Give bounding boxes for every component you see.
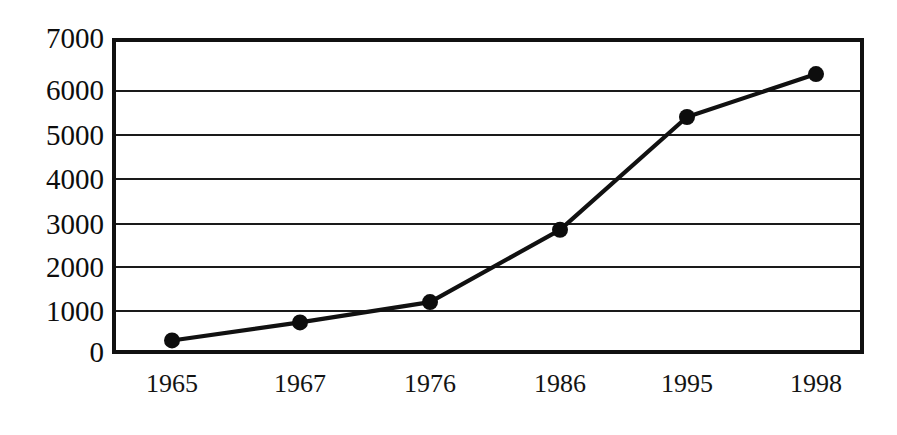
y-tick-label-6000: 6000 bbox=[4, 76, 104, 105]
data-series-svg bbox=[116, 42, 860, 350]
x-tick-label-1995: 1995 bbox=[627, 368, 747, 400]
y-tick-label-2000: 2000 bbox=[4, 253, 104, 282]
x-tick-label-1965: 1965 bbox=[112, 368, 232, 400]
data-point-marker bbox=[552, 222, 568, 238]
x-tick-label-1998: 1998 bbox=[756, 368, 876, 400]
y-tick-label-0: 0 bbox=[4, 338, 104, 367]
series-line bbox=[172, 74, 816, 340]
y-tick-label-1000: 1000 bbox=[4, 297, 104, 326]
plot-inner bbox=[116, 42, 860, 350]
data-point-marker bbox=[679, 109, 695, 125]
data-point-marker bbox=[422, 294, 438, 310]
data-point-marker bbox=[164, 332, 180, 348]
line-chart-figure: 7000 6000 5000 4000 3000 2000 1000 0 196… bbox=[0, 0, 897, 435]
x-axis-tick-labels: 1965 1967 1976 1986 1995 1998 bbox=[0, 368, 897, 414]
plot-area-frame bbox=[112, 38, 864, 354]
data-point-marker bbox=[808, 66, 824, 82]
data-point-marker bbox=[292, 314, 308, 330]
series-markers bbox=[164, 66, 824, 348]
y-tick-label-3000: 3000 bbox=[4, 210, 104, 239]
y-tick-label-4000: 4000 bbox=[4, 165, 104, 194]
x-tick-label-1976: 1976 bbox=[370, 368, 490, 400]
y-tick-label-7000: 7000 bbox=[4, 24, 104, 53]
x-tick-label-1986: 1986 bbox=[500, 368, 620, 400]
y-tick-label-5000: 5000 bbox=[4, 121, 104, 150]
x-tick-label-1967: 1967 bbox=[240, 368, 360, 400]
